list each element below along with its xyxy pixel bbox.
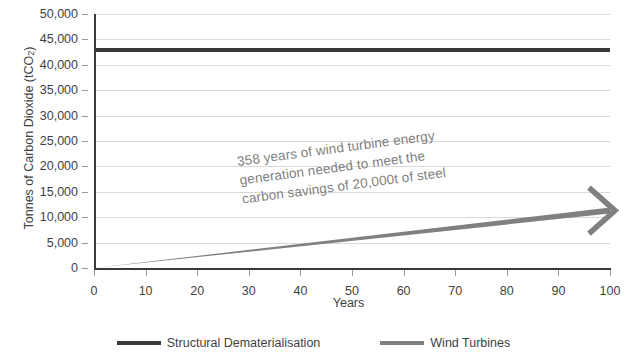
y-axis-tick-mark <box>82 39 88 40</box>
x-axis-tick-mark <box>507 270 508 276</box>
x-axis-tick-mark <box>558 270 559 276</box>
y-axis-tick-mark <box>82 65 88 66</box>
y-axis-tick-mark <box>82 116 88 117</box>
x-axis-title-text: Years <box>333 296 365 310</box>
legend-item-label: Structural Dematerialisation <box>167 336 321 350</box>
y-axis-line <box>94 14 96 269</box>
x-axis-tick-mark <box>300 270 301 276</box>
y-axis-tick-label: 5,000 <box>47 236 78 250</box>
x-axis-tick-mark <box>197 270 198 276</box>
x-axis-tick-mark <box>352 270 353 276</box>
y-axis-tick-label: 10,000 <box>40 210 78 224</box>
legend-item-label: Wind Turbines <box>430 336 510 350</box>
y-axis-tick-label: 30,000 <box>40 109 78 123</box>
x-axis-tick-mark <box>455 270 456 276</box>
x-axis-tick-mark <box>146 270 147 276</box>
legend-item[interactable]: Structural Dematerialisation <box>117 336 321 350</box>
y-axis-tick-mark <box>82 14 88 15</box>
legend-item[interactable]: Wind Turbines <box>380 336 510 350</box>
y-axis-tick-label: 40,000 <box>40 58 78 72</box>
x-axis-tick-mark <box>404 270 405 276</box>
y-axis-tick-mark <box>82 141 88 142</box>
y-axis-tick-label: 25,000 <box>40 134 78 148</box>
y-axis-tick-label: 15,000 <box>40 185 78 199</box>
y-axis-tick-label: 35,000 <box>40 83 78 97</box>
y-axis-tick-mark <box>82 268 88 269</box>
y-axis-tick-label: 20,000 <box>40 159 78 173</box>
x-axis-tick-mark <box>249 270 250 276</box>
y-axis-tick-mark <box>82 243 88 244</box>
legend-swatch-icon <box>380 341 424 345</box>
y-axis-tick-mark <box>82 192 88 193</box>
x-axis-tick-mark <box>610 270 611 276</box>
chart-legend: Structural DematerialisationWind Turbine… <box>0 330 627 356</box>
y-axis-tick-label: 50,000 <box>40 7 78 21</box>
carbon-dioxide-line-chart: Tonnes of Carbon Dioxide (tCO2) 05,00010… <box>0 0 627 362</box>
x-axis-title: Years <box>0 296 627 310</box>
x-axis-tick-mark <box>94 270 95 276</box>
y-axis-tick-mark <box>82 90 88 91</box>
legend-swatch-icon <box>117 341 161 345</box>
y-axis-tick-mark <box>82 217 88 218</box>
y-axis-tick-label: 45,000 <box>40 32 78 46</box>
y-axis-tick-mark <box>82 166 88 167</box>
